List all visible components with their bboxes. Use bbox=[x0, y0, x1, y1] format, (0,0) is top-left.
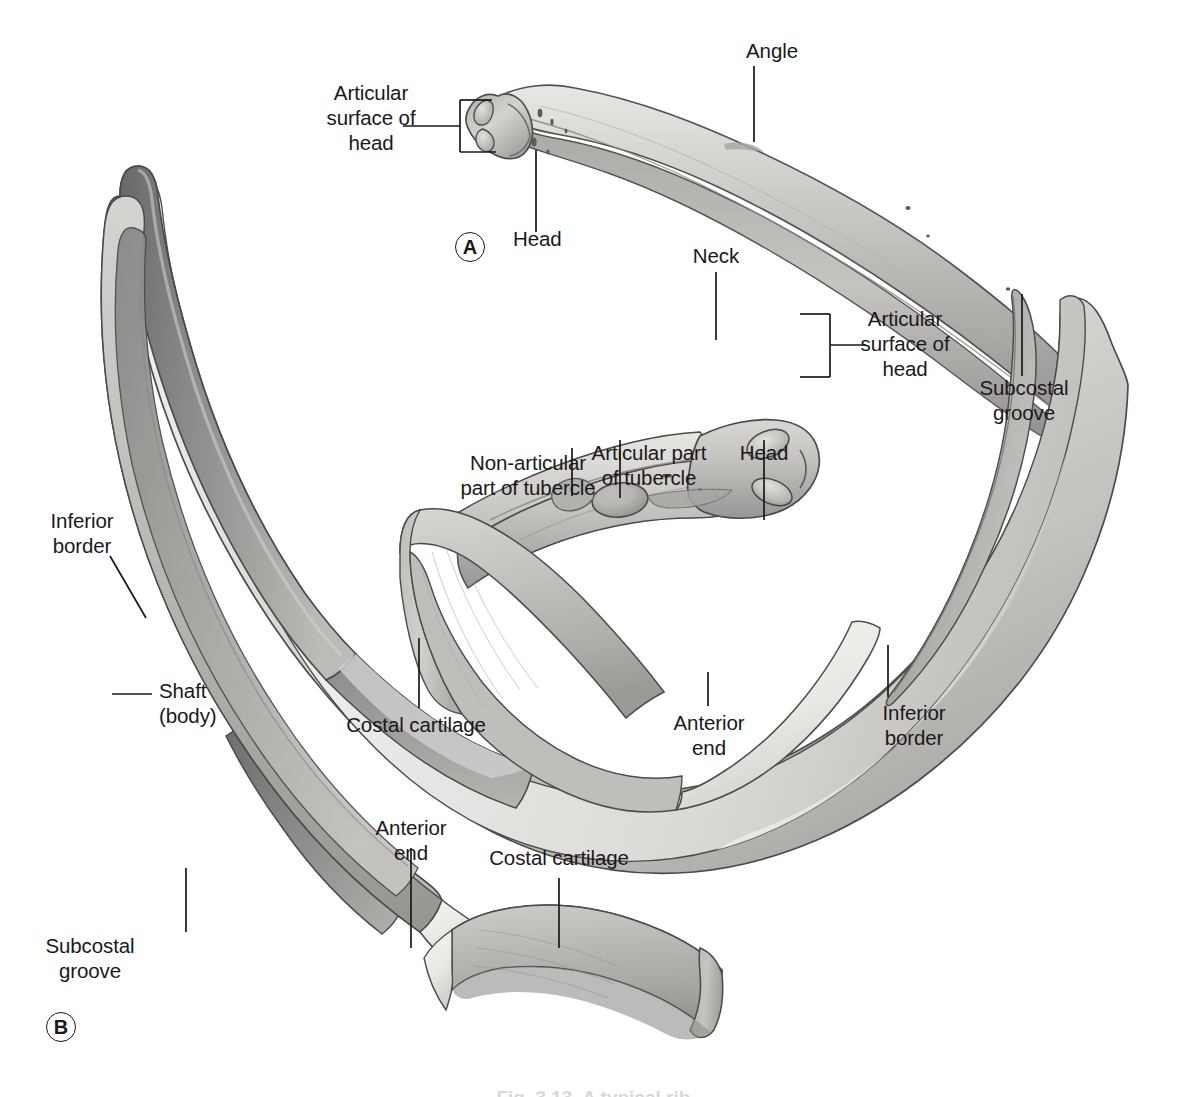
label-b-subcostal-groove-right: Subcostal groove bbox=[979, 375, 1068, 425]
label-b-anterior-end-bottom: Anterior end bbox=[376, 815, 447, 865]
panel-marker-a: A bbox=[455, 232, 485, 262]
label-b-neck: Neck bbox=[693, 243, 739, 268]
figure-caption-partial: Fig. 3.13 A typical rib. bbox=[0, 1088, 1192, 1097]
label-b-subcostal-groove-bottom: Subcostal groove bbox=[45, 933, 134, 983]
panel-b-bottom-costal-cartilage bbox=[424, 905, 723, 1039]
rib-anatomy-figure: Articular surface of head Head Angle Nec… bbox=[0, 0, 1192, 1097]
leader-b-inferior-border-left bbox=[110, 556, 146, 618]
panel-marker-b: B bbox=[46, 1012, 76, 1042]
label-b-non-articular-part-of-tubercle: Non-articular part of tubercle bbox=[460, 450, 595, 500]
label-b-costal-cartilage-bottom: Costal cartilage bbox=[489, 845, 629, 870]
label-b-costal-cartilage-mid: Costal cartilage bbox=[346, 712, 486, 737]
label-b-anterior-end-mid: Anterior end bbox=[674, 710, 745, 760]
label-b-inferior-border-left: Inferior border bbox=[50, 508, 113, 558]
label-a-angle: Angle bbox=[746, 38, 798, 63]
label-b-inferior-border-right: Inferior border bbox=[882, 700, 945, 750]
label-b-articular-surface-of-head: Articular surface of head bbox=[860, 306, 949, 381]
label-b-head: Head bbox=[740, 440, 789, 465]
label-a-articular-surface-of-head: Articular surface of head bbox=[326, 80, 415, 155]
rib-illustration bbox=[0, 0, 1192, 1097]
label-b-shaft-body: Shaft (body) bbox=[159, 678, 217, 728]
label-b-articular-part-of-tubercle: Articular part of tubercle bbox=[592, 440, 707, 490]
label-a-head: Head bbox=[513, 226, 562, 251]
